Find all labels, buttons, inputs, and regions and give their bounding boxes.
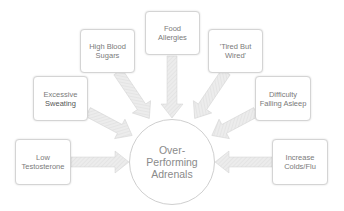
node-text-line: Excessive xyxy=(44,90,78,99)
arrow-excessive-sweating xyxy=(83,102,137,145)
arrow-difficulty-falling-asleep xyxy=(207,102,261,145)
node-text-line: Sweating xyxy=(44,99,78,108)
arrow-increase-colds-flu xyxy=(215,151,272,173)
node-text-line: Testosterone xyxy=(22,162,65,171)
node-low-testosterone: Low Testosterone xyxy=(15,139,71,185)
node-tired-but-wired: 'Tired But Wired' xyxy=(208,29,263,73)
node-text-line: Increase xyxy=(284,153,316,162)
arrow-tired-but-wired xyxy=(186,66,236,125)
node-text-line: Wired' xyxy=(220,51,252,60)
node-high-blood-sugars: High Blood Sugars xyxy=(80,29,135,73)
center-text-line: Over- xyxy=(159,144,185,156)
node-text-line: Allergies xyxy=(158,33,187,42)
node-text-line: Low xyxy=(22,153,65,162)
node-food-allergies: Food Allergies xyxy=(145,11,200,55)
center-text-line: Performing xyxy=(146,156,197,168)
node-text-line: Difficulty xyxy=(260,90,307,99)
node-text-line: Colds/Flu xyxy=(284,162,316,171)
node-excessive-sweating: Excessive Sweating xyxy=(33,76,88,121)
arrow-low-testosterone xyxy=(71,151,129,173)
node-text-line: 'Tired But xyxy=(220,42,252,51)
arrow-high-blood-sugars xyxy=(109,66,159,125)
node-increase-colds-flu: Increase Colds/Flu xyxy=(272,139,328,185)
center-node-over-performing-adrenals: Over- Performing Adrenals xyxy=(129,119,215,205)
arrow-food-allergies xyxy=(161,56,183,118)
node-difficulty-falling-asleep: Difficulty Falling Asleep xyxy=(255,76,311,121)
center-text-line: Adrenals xyxy=(151,168,192,180)
node-text-line: Falling Asleep xyxy=(260,99,307,108)
node-text-line: Food xyxy=(158,24,187,33)
node-text-line: Sugars xyxy=(89,51,126,60)
node-text-line: High Blood xyxy=(89,42,126,51)
